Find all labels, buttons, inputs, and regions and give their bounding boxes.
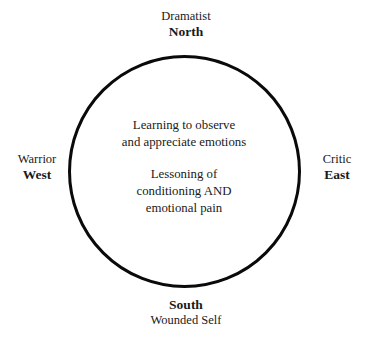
diagram-canvas: Dramatist North Warrior West Critic East… [0, 0, 372, 345]
center-p2-line2: conditioning AND [137, 184, 232, 198]
west-direction-label: West [4, 167, 70, 183]
center-p2-line1: Lessoning of [151, 167, 217, 181]
south-direction-label: South [0, 297, 372, 313]
east-direction-label: East [306, 167, 368, 183]
circle-center-text: Learning to observe and appreciate emoti… [84, 117, 284, 216]
west-role-label: Warrior [4, 152, 70, 167]
center-p1-line2: and appreciate emotions [122, 135, 246, 149]
compass-label-east: Critic East [306, 152, 368, 183]
south-role-label: Wounded Self [0, 313, 372, 328]
north-role-label: Dramatist [0, 9, 372, 24]
center-paragraph-2: Lessoning of conditioning AND emotional … [84, 166, 284, 217]
compass-label-west: Warrior West [4, 152, 70, 183]
compass-label-north: Dramatist North [0, 9, 372, 40]
east-role-label: Critic [306, 152, 368, 167]
compass-label-south: South Wounded Self [0, 297, 372, 328]
center-p1-line1: Learning to observe [133, 118, 235, 132]
center-paragraph-1: Learning to observe and appreciate emoti… [84, 117, 284, 151]
north-direction-label: North [0, 24, 372, 40]
center-p2-line3: emotional pain [146, 201, 222, 215]
